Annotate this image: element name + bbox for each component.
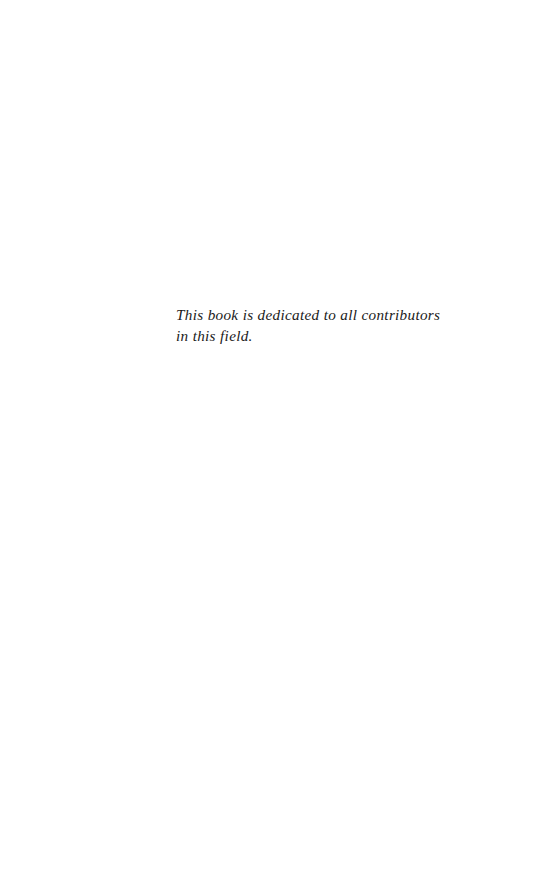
dedication-block: This book is dedicated to all contributo…: [176, 304, 454, 346]
dedication-text: This book is dedicated to all contributo…: [176, 304, 454, 346]
folio-zone: [0, 830, 539, 890]
book-page: This book is dedicated to all contributo…: [0, 0, 539, 890]
running-head-zone: [0, 0, 539, 290]
blank-body-zone: [0, 360, 539, 830]
